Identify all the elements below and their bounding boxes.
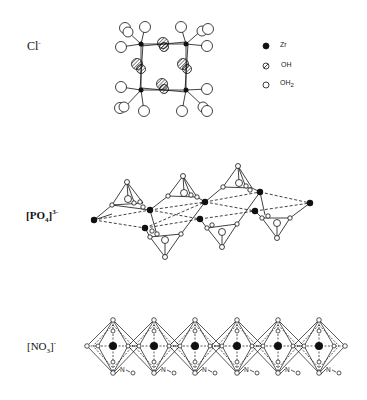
nitrate-n-label-4: N [244,366,249,373]
nitrate-n-label-3: N [202,366,207,373]
nitrate-n-label-6: N [326,366,331,373]
nitrate-anion-text: [NO [27,340,47,352]
nitrate-n-label-1: N [120,366,125,373]
phosphate-anion-text: [PO [26,209,45,221]
legend-oh2-sub: 2 [291,82,294,88]
phosphate-anion-charge: 3- [52,208,58,216]
nitrate-n-label-5: N [285,366,290,373]
legend-oh-label: OH [281,61,292,68]
phosphate-oxygens [110,164,292,260]
legend-oh2-symbol [263,82,269,88]
nitrate-n-label-2: N [161,366,166,373]
legend-oh2-label: OH2 [280,79,294,88]
phosphate-anion-label: [PO4]3- [26,208,58,224]
nitrate-chain [87,320,345,374]
nitrate-anion-label: [NO3]- [27,339,56,355]
legend-symbols [263,43,269,88]
legend-zr-label: Zr [280,41,287,48]
legend-oh2-text: OH [280,79,291,86]
legend-zr-symbol [263,43,269,49]
nitrate-anion-charge: - [54,339,56,347]
